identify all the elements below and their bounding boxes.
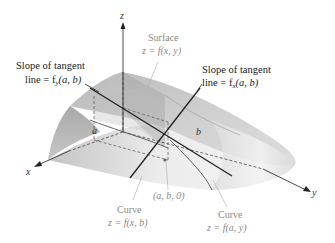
z-axis-arrow-icon (121, 22, 126, 29)
partial-derivative-surface-diagram: z x y a b Surface z = f(x, y) Slope of t… (0, 0, 335, 243)
tangent-fy-line2: line = fy(a, b) (25, 74, 82, 87)
curve-ay-equation: z = f(a, y) (206, 222, 247, 234)
base-point-dot (163, 158, 166, 161)
y-axis-label: y (311, 187, 317, 198)
surface-title: Surface (148, 32, 179, 43)
tangent-fy-suffix: (a, b) (59, 74, 82, 86)
curve-xb-title: Curve (117, 204, 142, 215)
curve-ay-title: Curve (218, 209, 243, 220)
surface (48, 72, 296, 190)
z-axis-label: z (119, 10, 124, 21)
tangent-fy-line1: Slope of tangent (16, 60, 85, 71)
tangent-fx-line1: Slope of tangent (202, 64, 271, 75)
leader-curve-xb (133, 176, 142, 200)
tangent-fy-prefix: line = f (25, 74, 56, 85)
base-point-label: (a, b, 0) (153, 190, 185, 202)
tangent-fx-suffix: (a, b) (236, 77, 259, 89)
curve-xb-equation: z = f(x, b) (107, 217, 148, 229)
x-axis-arrow-icon (34, 161, 42, 167)
tangent-fx-prefix: line = f (202, 77, 233, 88)
x-axis-label: x (25, 166, 31, 177)
a-label: a (92, 125, 97, 136)
surface-equation: z = f(x, y) (141, 45, 182, 57)
y-axis-arrow-icon (303, 186, 311, 192)
tangent-fx-line2: line = fx(a, b) (202, 77, 259, 90)
b-label: b (196, 126, 201, 137)
